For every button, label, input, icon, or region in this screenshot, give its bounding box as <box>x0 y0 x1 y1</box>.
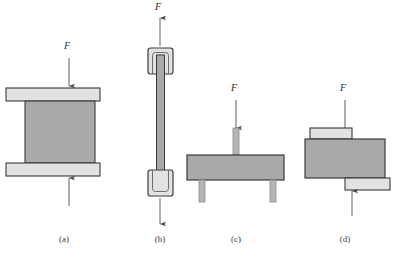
panel-b-specimen-bar <box>157 55 165 177</box>
figure-canvas: F F F F (a) (b) (c) (d) <box>0 0 394 261</box>
loading-modes-diagram <box>0 0 394 261</box>
panel-c-bending <box>187 100 284 202</box>
panel-a-bottom-plate <box>6 163 100 176</box>
panel-a-top-plate <box>6 88 100 101</box>
panel-c-left-support <box>199 180 205 202</box>
panel-d-caption: (d) <box>325 234 365 244</box>
panel-a-caption: (a) <box>44 234 84 244</box>
panel-c-caption: (c) <box>216 234 256 244</box>
panel-d-upper-plate <box>310 128 352 139</box>
panel-b-caption: (b) <box>140 234 180 244</box>
panel-d-force-label: F <box>340 82 346 93</box>
panel-d-shear <box>305 100 390 216</box>
panel-d-lower-plate <box>345 178 390 190</box>
panel-b-force-label: F <box>155 1 161 12</box>
panel-c-beam <box>187 155 284 180</box>
panel-a-force-label: F <box>64 40 70 51</box>
panel-b-tension <box>148 18 173 224</box>
panel-a-compression <box>6 58 100 206</box>
panel-c-right-support <box>270 180 276 202</box>
panel-b-bottom-grip <box>148 170 173 196</box>
panel-a-center-block <box>25 101 95 163</box>
panel-c-force-label: F <box>231 82 237 93</box>
panel-c-punch <box>233 128 239 155</box>
panel-d-center-block <box>305 139 385 178</box>
